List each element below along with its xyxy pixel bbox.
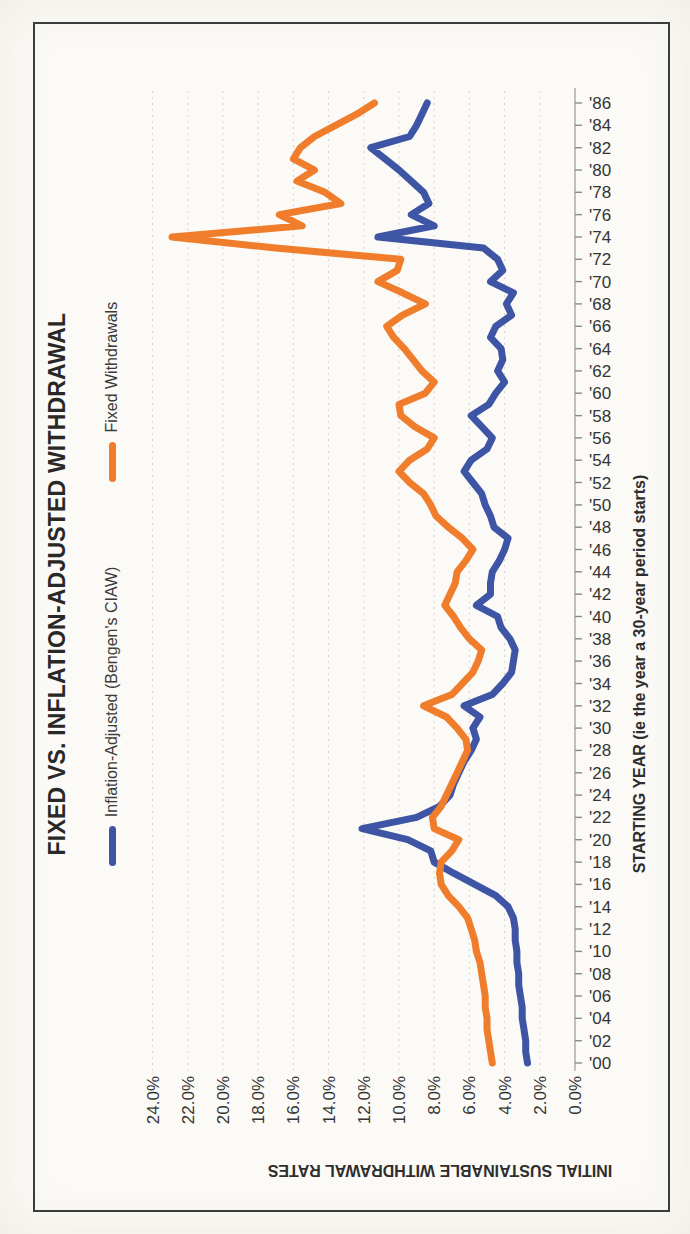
svg-text:'20: '20 <box>589 831 611 850</box>
svg-text:16.0%: 16.0% <box>284 1076 303 1124</box>
svg-text:'82: '82 <box>589 139 611 158</box>
svg-text:'50: '50 <box>589 496 611 515</box>
svg-text:'10: '10 <box>589 942 611 961</box>
svg-text:'86: '86 <box>589 94 611 113</box>
svg-text:'62: '62 <box>589 362 611 381</box>
svg-text:'64: '64 <box>589 340 611 359</box>
svg-text:0.0%: 0.0% <box>566 1076 585 1115</box>
svg-text:'22: '22 <box>589 808 611 827</box>
svg-text:'52: '52 <box>589 474 611 493</box>
svg-text:'46: '46 <box>589 541 611 560</box>
svg-text:12.0%: 12.0% <box>355 1076 374 1124</box>
svg-text:24.0%: 24.0% <box>144 1076 163 1124</box>
svg-text:'36: '36 <box>589 652 611 671</box>
svg-text:'00: '00 <box>589 1054 611 1073</box>
svg-text:'24: '24 <box>589 786 611 805</box>
svg-text:'38: '38 <box>589 630 611 649</box>
svg-text:'66: '66 <box>589 317 611 336</box>
svg-text:'56: '56 <box>589 429 611 448</box>
svg-text:'68: '68 <box>589 295 611 314</box>
svg-text:'04: '04 <box>589 1009 611 1028</box>
svg-text:'78: '78 <box>589 183 611 202</box>
svg-text:'16: '16 <box>589 875 611 894</box>
svg-text:18.0%: 18.0% <box>249 1076 268 1124</box>
svg-text:6.0%: 6.0% <box>460 1076 479 1115</box>
svg-text:4.0%: 4.0% <box>496 1076 515 1115</box>
svg-text:'58: '58 <box>589 407 611 426</box>
svg-text:'14: '14 <box>589 898 611 917</box>
y-axis-title: INITIAL SUSTAINABLE WITHDRAWAL RATES <box>190 1157 690 1179</box>
chart-plot: '00'02'04'06'08'10'12'14'16'18'20'22'24'… <box>0 0 690 1234</box>
svg-text:'18: '18 <box>589 853 611 872</box>
svg-text:'32: '32 <box>589 697 611 716</box>
svg-text:'60: '60 <box>589 384 611 403</box>
svg-text:'48: '48 <box>589 518 611 537</box>
svg-text:'74: '74 <box>589 228 611 247</box>
svg-text:'12: '12 <box>589 920 611 939</box>
svg-text:8.0%: 8.0% <box>425 1076 444 1115</box>
svg-text:'26: '26 <box>589 764 611 783</box>
svg-text:'72: '72 <box>589 250 611 269</box>
svg-text:20.0%: 20.0% <box>214 1076 233 1124</box>
svg-text:'30: '30 <box>589 719 611 738</box>
svg-text:10.0%: 10.0% <box>390 1076 409 1124</box>
book-page-photo: FIXED VS. INFLATION-ADJUSTED WITHDRAWAL … <box>0 0 690 1234</box>
svg-text:'70: '70 <box>589 273 611 292</box>
svg-text:'34: '34 <box>589 675 611 694</box>
svg-text:'76: '76 <box>589 206 611 225</box>
svg-text:'54: '54 <box>589 451 611 470</box>
svg-text:'08: '08 <box>589 965 611 984</box>
rotated-chart-sheet: FIXED VS. INFLATION-ADJUSTED WITHDRAWAL … <box>0 0 690 1234</box>
svg-text:14.0%: 14.0% <box>320 1076 339 1124</box>
svg-text:'02: '02 <box>589 1032 611 1051</box>
svg-text:'42: '42 <box>589 585 611 604</box>
svg-text:'28: '28 <box>589 741 611 760</box>
svg-text:'44: '44 <box>589 563 611 582</box>
svg-text:'06: '06 <box>589 987 611 1006</box>
svg-text:2.0%: 2.0% <box>531 1076 550 1115</box>
svg-text:'80: '80 <box>589 161 611 180</box>
svg-text:'40: '40 <box>589 608 611 627</box>
x-axis-title: STARTING YEAR (ie the year a 30-year per… <box>631 195 649 1153</box>
svg-text:22.0%: 22.0% <box>179 1076 198 1124</box>
svg-text:'84: '84 <box>589 116 611 135</box>
